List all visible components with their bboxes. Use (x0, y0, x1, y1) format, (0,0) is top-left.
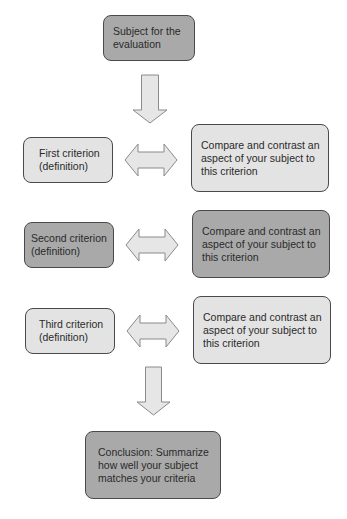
first-criterion-line-1: First criterion (39, 147, 100, 159)
third-compare-line-3: this criterion (203, 337, 260, 349)
down-arrow-icon (136, 366, 172, 416)
first-criterion-line-2: (definition) (39, 160, 88, 172)
second-compare-line-2: aspect of your subject to (202, 238, 316, 250)
subject-text: Subject for the evaluation (113, 25, 181, 51)
third-criterion-box: Third criterion (definition) (25, 308, 115, 354)
conclusion-box: Conclusion: Summarize how well your subj… (85, 431, 221, 499)
second-criterion-line-1: Second criterion (31, 232, 107, 244)
first-compare-line-2: aspect of your subject to (201, 152, 315, 164)
left-right-arrow-icon (126, 314, 180, 348)
third-criterion-line-1: Third criterion (39, 318, 103, 330)
second-criterion-box: Second criterion (definition) (24, 222, 114, 268)
subject-line-2: evaluation (113, 38, 161, 50)
first-compare-line-3: this criterion (201, 165, 258, 177)
conclusion-line-3: matches your criteria (98, 472, 195, 484)
second-compare-box: Compare and contrast an aspect of your s… (192, 210, 330, 278)
first-compare-line-1: Compare and contrast an (201, 139, 319, 151)
third-compare-box: Compare and contrast an aspect of your s… (193, 296, 331, 364)
left-right-arrow-icon (124, 143, 178, 177)
conclusion-line-1: Conclusion: Summarize (98, 446, 209, 458)
third-compare-line-2: aspect of your subject to (203, 324, 317, 336)
first-criterion-box: First criterion (definition) (23, 137, 113, 183)
third-compare-line-1: Compare and contrast an (203, 311, 321, 323)
first-compare-box: Compare and contrast an aspect of your s… (191, 124, 329, 192)
second-criterion-line-2: (definition) (31, 245, 80, 257)
conclusion-line-2: how well your subject (98, 459, 198, 471)
second-compare-line-3: this criterion (202, 251, 259, 263)
third-criterion-line-2: (definition) (39, 331, 88, 343)
subject-box: Subject for the evaluation (103, 15, 195, 61)
subject-line-1: Subject for the (113, 25, 181, 37)
left-right-arrow-icon (125, 228, 179, 262)
second-compare-line-1: Compare and contrast an (202, 225, 320, 237)
down-arrow-icon (132, 74, 168, 124)
